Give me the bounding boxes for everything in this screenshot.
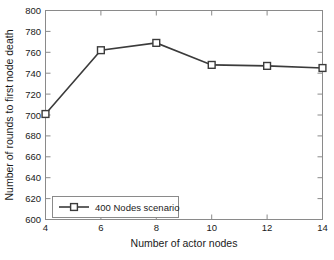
series-line-400-nodes-scenario xyxy=(46,43,323,114)
data-point-marker xyxy=(319,65,326,72)
x-tick-labels: 4 6 8 10 12 14 xyxy=(43,222,328,233)
chart-figure: 600 620 640 660 680 700 720 740 760 780 … xyxy=(0,0,334,260)
data-point-marker xyxy=(98,47,105,54)
data-point-marker xyxy=(264,63,271,70)
x-tick-label: 10 xyxy=(206,222,217,233)
x-tick-marks xyxy=(46,11,323,220)
y-tick-labels: 600 620 640 660 680 700 720 740 760 780 … xyxy=(25,5,41,225)
legend-entry-label: 400 Nodes scenario xyxy=(95,202,180,213)
y-tick-label: 760 xyxy=(25,47,41,58)
x-tick-label: 6 xyxy=(98,222,103,233)
data-point-marker xyxy=(42,111,49,118)
legend[interactable]: 400 Nodes scenario xyxy=(53,197,180,218)
y-tick-marks xyxy=(46,11,323,220)
series-markers xyxy=(42,40,326,118)
y-tick-label: 720 xyxy=(25,89,41,100)
x-tick-label: 8 xyxy=(154,222,159,233)
x-tick-label: 12 xyxy=(262,222,273,233)
x-tick-label: 14 xyxy=(317,222,328,233)
legend-marker-sample xyxy=(71,204,78,211)
x-axis-title: Number of actor nodes xyxy=(131,237,238,249)
x-tick-label: 4 xyxy=(43,222,48,233)
line-chart: 600 620 640 660 680 700 720 740 760 780 … xyxy=(0,0,334,260)
plot-frame xyxy=(46,11,323,220)
y-tick-label: 640 xyxy=(25,172,41,183)
y-axis-title: Number of rounds to first node death xyxy=(3,29,15,200)
y-tick-label: 620 xyxy=(25,193,41,204)
y-tick-label: 680 xyxy=(25,130,41,141)
y-tick-label: 780 xyxy=(25,26,41,37)
y-tick-label: 600 xyxy=(25,214,41,225)
y-tick-label: 740 xyxy=(25,68,41,79)
data-point-marker xyxy=(153,40,160,47)
y-tick-label: 700 xyxy=(25,110,41,121)
y-tick-label: 800 xyxy=(25,5,41,16)
y-tick-label: 660 xyxy=(25,151,41,162)
data-point-marker xyxy=(208,62,215,69)
